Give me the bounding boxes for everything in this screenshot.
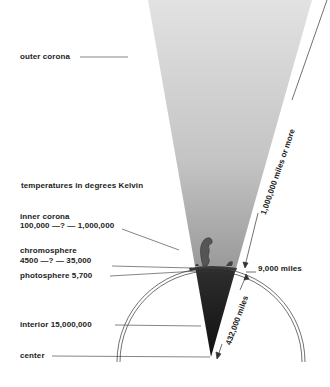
photosphere-leader <box>110 271 198 276</box>
center-leader <box>52 356 210 357</box>
chromosphere-temperature: 4500 —? — 35,000 <box>20 256 91 265</box>
chromosphere-leader <box>112 266 192 268</box>
chromosphere-thickness-label: 9,000 miles <box>258 264 302 273</box>
inner-corona-label: inner corona <box>20 212 70 221</box>
center-label: center <box>20 351 45 360</box>
inner-corona-leader <box>122 229 179 250</box>
radius-line-upper <box>240 276 246 290</box>
outer-corona-label: outer corona <box>20 52 70 61</box>
chromosphere-label: chromosphere <box>20 246 77 255</box>
photosphere-label: photosphere 5,700 <box>20 271 92 280</box>
interior-label: interior 15,000,000 <box>20 320 92 329</box>
corona-wedge <box>148 0 312 357</box>
temperature-heading: temperatures in degrees Kelvin <box>21 181 143 190</box>
inner-corona-temperature: 100,000 —? — 1,000,000 <box>20 221 114 230</box>
